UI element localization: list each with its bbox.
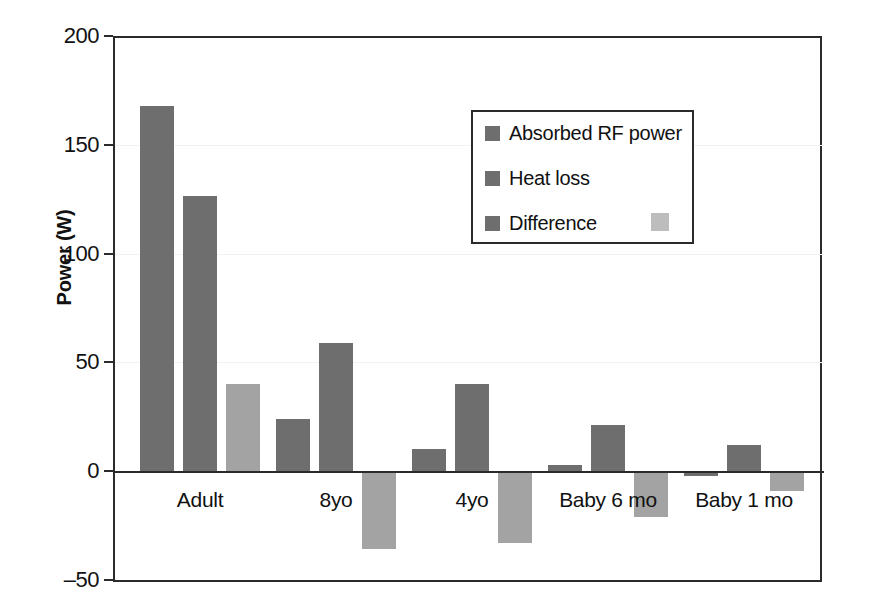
y-tick-mark — [104, 35, 113, 37]
bar-baby-6-mo-heat-loss — [591, 425, 625, 471]
y-tick-mark — [104, 253, 113, 255]
gridline-50 — [115, 362, 824, 363]
bar-baby-6-mo-absorbed-rf-power — [548, 465, 582, 471]
y-tick-label-neg50: –50 — [64, 567, 99, 593]
x-axis-label-adult: Adult — [177, 488, 223, 512]
bar-adult-difference — [226, 384, 260, 471]
bar-4yo-absorbed-rf-power — [412, 449, 446, 471]
legend-swatch-icon — [485, 171, 500, 186]
bar-chart-figure: Power (W) 200 150 100 50 0 –50 — [0, 0, 871, 614]
legend-item-absorbed-rf-power: Absorbed RF power — [485, 122, 682, 144]
y-tick-label-0: 0 — [87, 458, 99, 484]
gridline-150 — [115, 145, 824, 146]
y-tick-mark — [104, 579, 113, 581]
bar-8yo-heat-loss — [319, 343, 353, 471]
y-tick-mark — [104, 470, 113, 472]
legend-item-heat-loss: Heat loss — [485, 167, 590, 189]
bar-adult-heat-loss — [183, 196, 217, 471]
legend-label: Difference — [509, 212, 597, 235]
legend-swatch-icon — [485, 126, 500, 141]
bar-4yo-difference — [498, 473, 532, 543]
legend-label: Heat loss — [509, 167, 590, 190]
y-tick-mark — [104, 361, 113, 363]
y-tick-label-150: 150 — [64, 132, 99, 158]
bar-adult-absorbed-rf-power — [140, 106, 174, 471]
chart-legend: Absorbed RF power Heat loss Difference — [471, 110, 694, 244]
gridline-100 — [115, 254, 824, 255]
bar-4yo-heat-loss — [455, 384, 489, 471]
y-tick-label-100: 100 — [64, 241, 99, 267]
bar-baby-1-mo-heat-loss — [727, 445, 761, 471]
legend-swatch-icon-difference-light — [651, 213, 669, 231]
legend-item-difference: Difference — [485, 212, 597, 234]
plot-area: Adult 8yo 4yo Baby 6 mo Baby 1 mo — [113, 36, 822, 582]
x-axis-label-baby-6-mo: Baby 6 mo — [559, 488, 657, 512]
legend-swatch-icon — [485, 216, 500, 231]
bar-8yo-absorbed-rf-power — [276, 419, 310, 471]
x-axis-label-8yo: 8yo — [320, 488, 353, 512]
y-tick-mark — [104, 144, 113, 146]
legend-label: Absorbed RF power — [509, 122, 682, 145]
bar-baby-1-mo-absorbed-rf-power — [684, 473, 718, 476]
y-tick-label-200: 200 — [64, 23, 99, 49]
x-axis-label-4yo: 4yo — [456, 488, 489, 512]
bar-8yo-difference — [362, 473, 396, 549]
y-tick-label-50: 50 — [76, 349, 99, 375]
x-axis-label-baby-1-mo: Baby 1 mo — [695, 488, 793, 512]
